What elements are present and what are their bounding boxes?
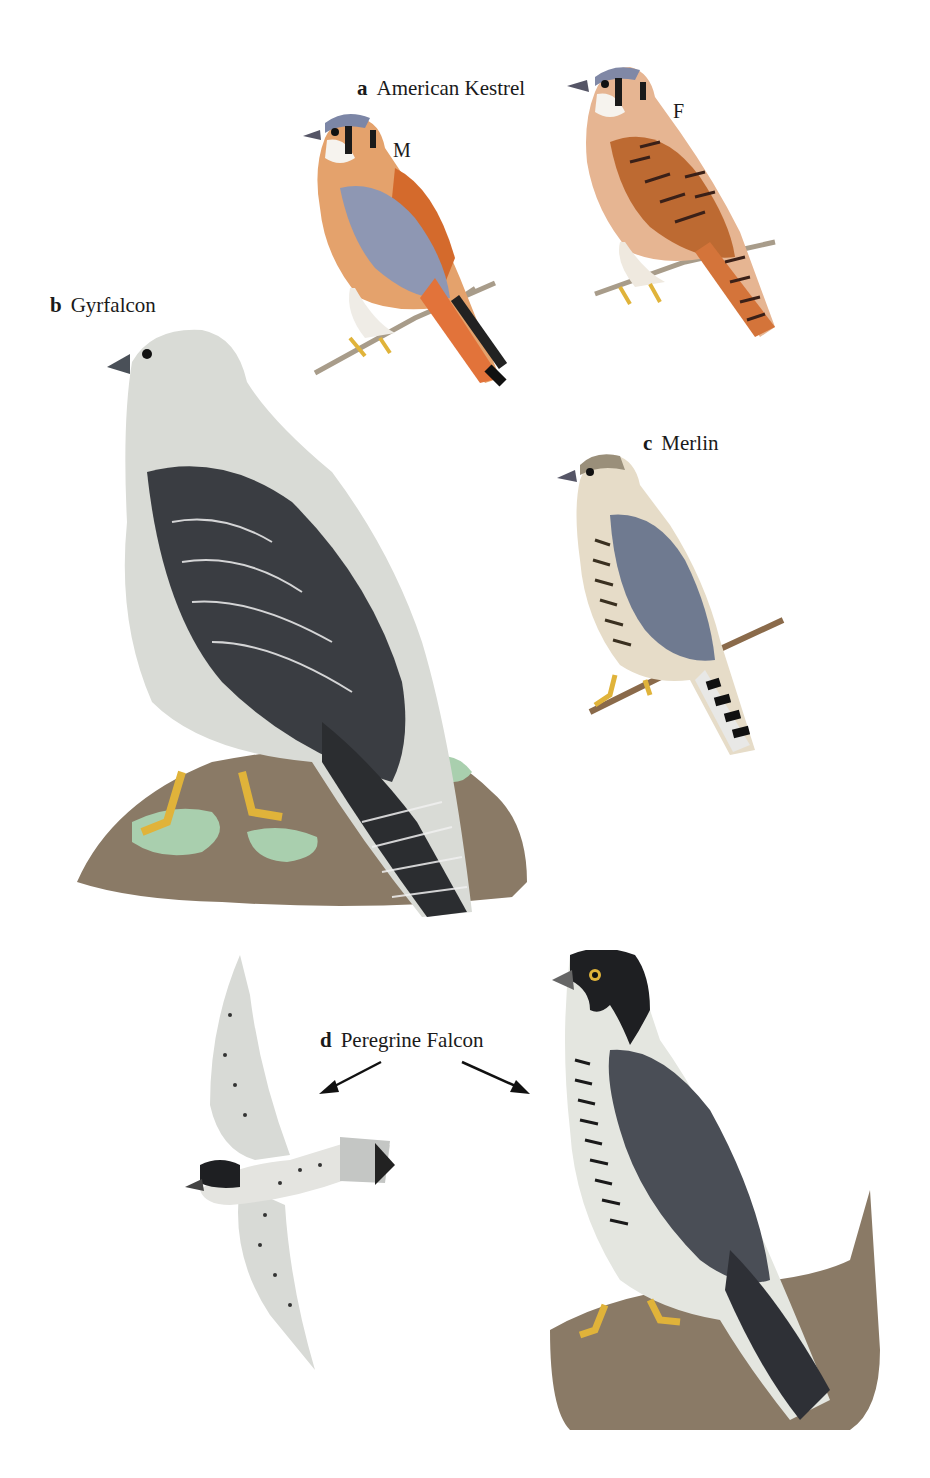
- caption-letter: a: [357, 76, 368, 100]
- illustration-peregrine-falcon-perched: [550, 950, 890, 1450]
- caption-letter: b: [50, 293, 62, 317]
- illustration-gyrfalcon: [72, 322, 532, 922]
- caption-name: American Kestrel: [377, 76, 526, 100]
- illustration-peregrine-falcon-flight: [180, 955, 395, 1375]
- caption-name: Gyrfalcon: [71, 293, 156, 317]
- arrow-right-icon: [458, 1058, 533, 1098]
- caption-gyrfalcon: bGyrfalcon: [50, 293, 156, 318]
- caption-american-kestrel: aAmerican Kestrel: [357, 76, 525, 101]
- illustration-american-kestrel-female: [565, 62, 780, 342]
- illustration-merlin: [555, 450, 785, 760]
